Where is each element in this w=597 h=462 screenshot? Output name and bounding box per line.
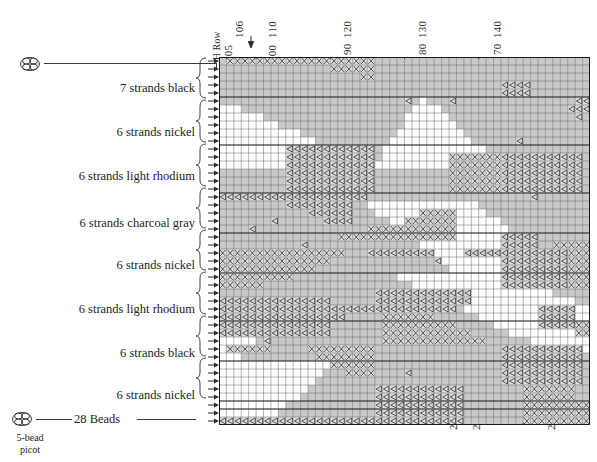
top-tick-label-80: 80 xyxy=(416,43,428,55)
beads-leader-line-right xyxy=(137,419,196,420)
picot-caption-line2: picot xyxy=(20,444,40,455)
picot-caption: 5-bead picot xyxy=(2,432,58,455)
group-label-1: 6 strands nickel xyxy=(0,125,195,140)
group-label-7: 6 strands nickel xyxy=(0,388,195,403)
group-label-3: 6 strands charcoal gray xyxy=(0,216,195,231)
group-label-2: 6 strands light rhodium xyxy=(0,169,195,184)
beads-leader-line-left xyxy=(36,419,72,420)
pattern-chart-page: 106 110 120 130 140 105 100 90 80 70 H R… xyxy=(0,0,597,462)
picot-leader-line-top xyxy=(44,63,216,64)
group-label-5: 6 strands light rhodium xyxy=(0,302,195,317)
top-tick-label-120: 120 xyxy=(341,21,353,38)
pattern-grid[interactable] xyxy=(219,57,590,425)
group-label-0: 7 strands black xyxy=(0,81,195,96)
group-label-6: 6 strands black xyxy=(0,346,195,361)
top-tick-label-90: 90 xyxy=(341,43,353,55)
top-tick-label-140: 140 xyxy=(491,21,503,38)
group-label-4: 6 strands nickel xyxy=(0,258,195,273)
top-tick-label-70: 70 xyxy=(491,43,503,55)
picot-bead-icon-bottom xyxy=(10,409,36,429)
picot-bead-icon-top xyxy=(18,54,44,74)
pattern-grid-svg[interactable] xyxy=(219,57,590,425)
beads-count-label: 28 Beads xyxy=(74,412,120,427)
picot-leader-drop-top xyxy=(216,63,217,69)
top-tick-label-130: 130 xyxy=(416,21,428,38)
picot-caption-line1: 5-bead xyxy=(16,432,43,443)
